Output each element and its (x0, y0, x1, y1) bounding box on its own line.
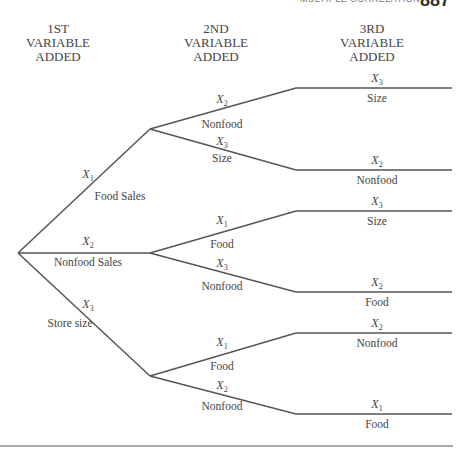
edge-x3-x2 (150, 376, 452, 414)
third-label: Nonfood (357, 337, 398, 349)
second-var: X3 (216, 256, 227, 272)
edge-root-x3 (18, 253, 150, 376)
edge-x1-x3 (150, 129, 452, 170)
third-var: X1 (371, 397, 382, 413)
first-var-x3: X3 (82, 297, 93, 313)
second-var: X2 (216, 92, 227, 108)
third-var: X3 (371, 194, 382, 210)
second-label: Nonfood (202, 118, 243, 130)
second-label: Size (212, 152, 232, 164)
third-label: Size (367, 215, 387, 227)
first-label-store-size: Store size (47, 317, 92, 329)
third-label: Food (365, 418, 389, 430)
second-var: X1 (216, 213, 227, 229)
third-label: Food (365, 296, 389, 308)
edge-x2-x1 (150, 211, 452, 253)
second-label: Food (210, 238, 234, 250)
first-var-x1: X1 (82, 167, 93, 183)
tree-diagram (0, 0, 469, 456)
third-label: Nonfood (357, 174, 398, 186)
third-var: X3 (371, 71, 382, 87)
edge-x1-x2 (150, 88, 452, 129)
second-var: X1 (216, 335, 227, 351)
third-var: X2 (371, 275, 382, 291)
first-label-nonfood-sales: Nonfood Sales (54, 256, 122, 268)
second-var: X3 (216, 134, 227, 150)
second-var: X2 (216, 378, 227, 394)
edge-x2-x3 (150, 253, 452, 292)
third-var: X2 (371, 153, 382, 169)
first-var-x2: X2 (82, 234, 93, 250)
second-label: Food (210, 360, 234, 372)
third-var: X2 (371, 316, 382, 332)
second-label: Nonfood (202, 400, 243, 412)
edge-x3-x1 (150, 333, 452, 376)
third-label: Size (367, 92, 387, 104)
second-label: Nonfood (202, 280, 243, 292)
first-label-food-sales: Food Sales (95, 190, 146, 202)
